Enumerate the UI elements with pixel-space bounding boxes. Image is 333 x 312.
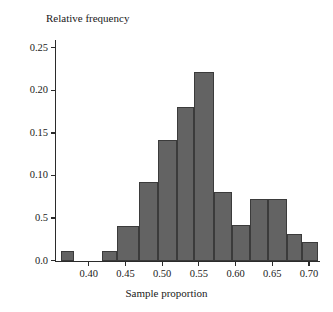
x-tick-label: 0.70 (300, 268, 318, 280)
x-tick-label: 0.50 (153, 268, 171, 280)
x-tick-mark (88, 262, 89, 266)
x-axis-title: Sample proportion (0, 287, 333, 300)
x-tick-label: 0.40 (80, 268, 98, 280)
y-tick-label: 0.15 (30, 127, 48, 138)
histogram-bar (139, 182, 158, 260)
histogram-bar (194, 72, 214, 261)
histogram-bar (268, 199, 286, 260)
x-tick-label: 0.60 (226, 268, 244, 280)
x-tick-mark (198, 262, 199, 266)
histogram-bar (302, 242, 318, 261)
y-axis-line (55, 40, 56, 262)
histogram-bar (158, 140, 177, 261)
y-tick-label: 0.0 (35, 255, 48, 266)
histogram-bar (102, 251, 117, 260)
x-tick-label: 0.45 (116, 268, 134, 280)
y-tick-mark (51, 90, 55, 91)
histogram-bar (250, 199, 268, 260)
plot-area: 0.00.50.100.150.200.25 0.400.450.500.550… (0, 0, 333, 312)
y-tick-mark (51, 260, 55, 261)
y-tick-mark (51, 47, 55, 48)
x-tick-label: 0.65 (263, 268, 281, 280)
histogram-bar (287, 234, 302, 260)
x-tick-mark (125, 262, 126, 266)
x-tick-mark (235, 262, 236, 266)
x-tick-mark (272, 262, 273, 266)
x-tick-label: 0.55 (190, 268, 208, 280)
histogram-bar (232, 225, 250, 261)
x-tick-mark (308, 262, 309, 266)
y-tick-label: 0.5 (35, 212, 48, 223)
histogram-bar (214, 192, 232, 261)
y-tick-mark (51, 132, 55, 133)
histogram-figure: Relative frequency 0.00.50.100.150.200.2… (0, 0, 333, 312)
x-tick-mark (162, 262, 163, 266)
x-axis-line (55, 261, 320, 262)
y-tick-label: 0.25 (30, 42, 48, 53)
histogram-bar (177, 107, 194, 261)
y-tick-mark (51, 175, 55, 176)
histogram-bar (117, 226, 139, 261)
histogram-bar (61, 251, 74, 260)
y-tick-label: 0.20 (30, 84, 48, 95)
y-tick-mark (51, 217, 55, 218)
y-tick-label: 0.10 (30, 169, 48, 180)
